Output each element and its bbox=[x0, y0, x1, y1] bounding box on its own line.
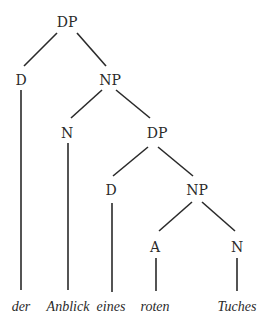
syntax-tree-diagram: DPDNPNDPDNPAN derAnblickeinesrotenTuches bbox=[0, 0, 267, 326]
leaf-word-w5: Tuches bbox=[218, 299, 257, 314]
edge-np2-a1 bbox=[159, 202, 192, 231]
leaf-word-w1: der bbox=[12, 299, 31, 314]
edge-np1-dp2 bbox=[116, 90, 150, 118]
edge-dp2-np2 bbox=[158, 147, 193, 176]
node-d1: D bbox=[15, 72, 26, 88]
tree-edges bbox=[21, 33, 237, 292]
node-n1: N bbox=[61, 125, 73, 141]
node-d2: D bbox=[105, 182, 116, 198]
edge-np2-n2 bbox=[202, 202, 235, 231]
node-a1: A bbox=[149, 239, 161, 255]
node-n2: N bbox=[231, 239, 243, 255]
leaf-word-w2: Anblick bbox=[46, 299, 91, 314]
node-dp2: DP bbox=[147, 125, 168, 141]
leaf-word-w3: eines bbox=[97, 299, 126, 314]
edge-dp1-np1 bbox=[77, 33, 106, 66]
tree-leaves: derAnblickeinesrotenTuches bbox=[12, 299, 257, 314]
edge-dp2-d2 bbox=[113, 147, 148, 176]
tree-nodes: DPDNPNDPDNPAN bbox=[15, 14, 243, 255]
node-dp1: DP bbox=[57, 14, 78, 30]
edge-np1-n1 bbox=[71, 90, 102, 118]
edge-dp1-d1 bbox=[24, 33, 57, 66]
leaf-word-w4: roten bbox=[140, 299, 169, 314]
node-np1: NP bbox=[99, 72, 121, 88]
node-np2: NP bbox=[186, 182, 208, 198]
